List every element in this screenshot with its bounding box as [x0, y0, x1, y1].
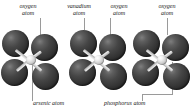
core-atom-phosphorus — [157, 55, 167, 65]
label-oxygen-middle-line2: atom — [101, 10, 137, 17]
leader-line-phosphorus-down — [142, 94, 143, 101]
label-oxygen-left-line1: oxygen — [20, 3, 37, 9]
core-atom-vanadium — [94, 55, 104, 65]
label-oxygen-right-line2: atom — [148, 10, 186, 17]
molecular-structure-figure: oxygen atom vanadium atom oxygen atom ox… — [0, 0, 193, 112]
label-oxygen-right: oxygen atom — [148, 3, 186, 17]
core-atom-arsenic — [26, 55, 36, 65]
label-phosphorus-text: phosphorus atom — [104, 100, 145, 106]
label-oxygen-left-line2: atom — [8, 10, 48, 17]
label-vanadium-line1: vanadium — [67, 3, 91, 9]
label-vanadium: vanadium atom — [58, 3, 100, 17]
label-arsenic-text: arsenic atom — [33, 100, 64, 106]
label-oxygen-middle: oxygen atom — [101, 3, 137, 17]
sphere-oxygen-top-left — [70, 30, 97, 57]
cluster-arsenate — [0, 29, 62, 95]
label-arsenic: arsenic atom — [33, 100, 64, 107]
sphere-oxygen-top-left — [133, 30, 160, 57]
label-vanadium-line2: atom — [58, 10, 100, 17]
label-oxygen-middle-line1: oxygen — [111, 3, 128, 9]
sphere-oxygen-top-left — [2, 30, 29, 57]
label-phosphorus: phosphorus atom — [104, 100, 145, 107]
cluster-vanadate — [68, 29, 130, 95]
cluster-phosphate — [131, 29, 193, 95]
label-oxygen-left: oxygen atom — [8, 3, 48, 17]
label-oxygen-right-line1: oxygen — [159, 3, 176, 9]
